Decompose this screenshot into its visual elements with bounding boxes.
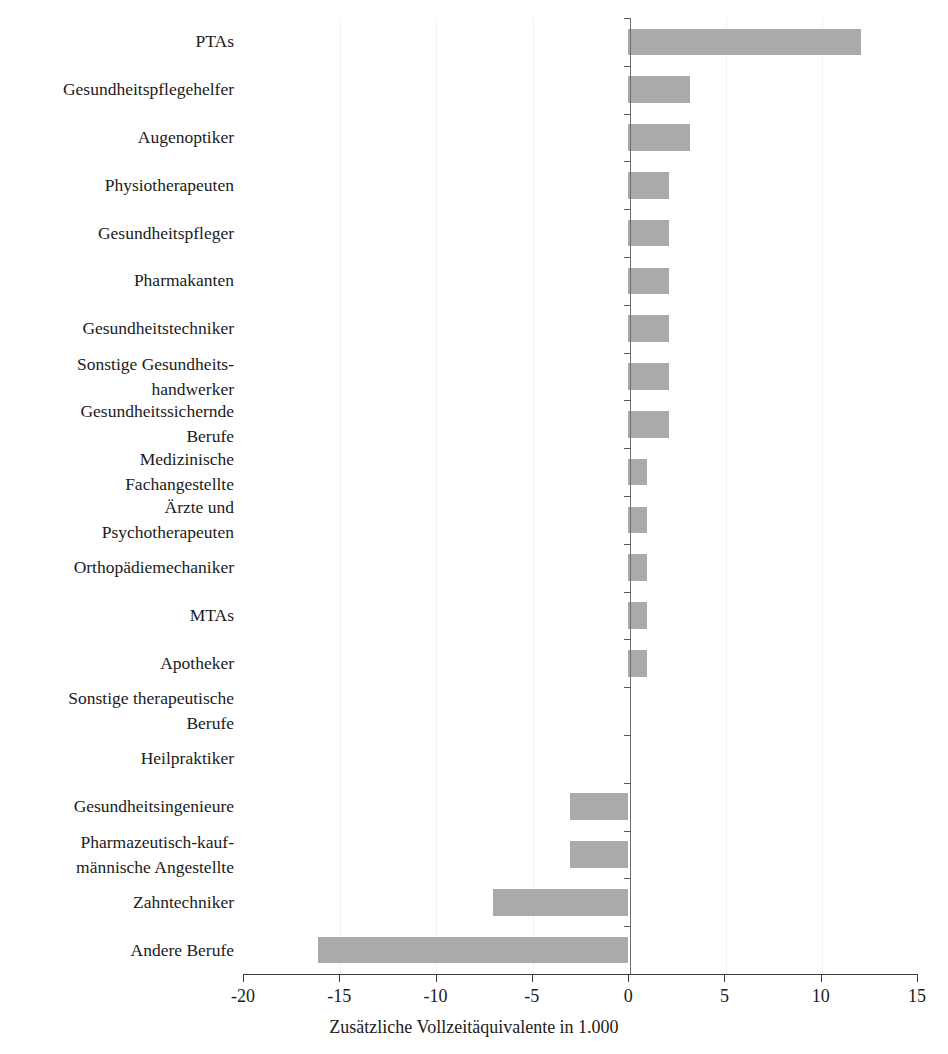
bar-row — [243, 29, 917, 56]
category-tick — [624, 687, 631, 688]
x-axis-tick — [821, 974, 822, 982]
bar-row — [243, 172, 917, 199]
bar-row — [243, 76, 917, 103]
bar-row — [243, 793, 917, 820]
category-label: Gesundheitspfleger — [0, 221, 234, 246]
x-axis-title: Zusätzliche Vollzeitäquivalente in 1.000 — [0, 1017, 948, 1038]
bar-row — [243, 411, 917, 438]
bar — [628, 507, 647, 534]
x-axis-tick-label: -5 — [502, 986, 562, 1007]
category-label: Gesundheitspflegehelfer — [0, 77, 234, 102]
category-label: Zahntechniker — [0, 890, 234, 915]
x-axis-line — [243, 974, 917, 975]
category-label: Orthopädiemechaniker — [0, 555, 234, 580]
category-tick — [624, 592, 631, 593]
bar-row — [243, 698, 917, 725]
category-tick — [624, 448, 631, 449]
bar — [628, 363, 668, 390]
category-label: Gesundheitstechniker — [0, 316, 234, 341]
category-label: Pharmazeutisch-kauf- männische Angestell… — [0, 830, 234, 880]
bar-row — [243, 268, 917, 295]
category-label: Ärzte und Psychotherapeuten — [0, 495, 234, 545]
bar-row — [243, 315, 917, 342]
category-tick — [624, 18, 631, 19]
bar-row — [243, 459, 917, 486]
bar — [628, 650, 647, 677]
category-label: Gesundheitsingenieure — [0, 794, 234, 819]
x-axis-tick-label: 5 — [694, 986, 754, 1007]
category-tick — [624, 878, 631, 879]
category-tick — [624, 735, 631, 736]
bar — [628, 459, 647, 486]
x-axis-tick — [628, 974, 629, 982]
category-tick — [624, 496, 631, 497]
category-tick — [624, 353, 631, 354]
x-axis-tick — [532, 974, 533, 982]
x-axis-tick — [243, 974, 244, 982]
category-label: Apotheker — [0, 651, 234, 676]
category-tick — [624, 209, 631, 210]
category-tick — [624, 305, 631, 306]
category-label: Augenoptiker — [0, 125, 234, 150]
category-tick — [624, 114, 631, 115]
x-axis-tick — [436, 974, 437, 982]
bar-row — [243, 937, 917, 964]
bar-row — [243, 363, 917, 390]
category-tick — [624, 66, 631, 67]
x-axis-tick — [339, 974, 340, 982]
x-axis-tick-label: 15 — [887, 986, 947, 1007]
category-label: Sonstige therapeutische Berufe — [0, 686, 234, 736]
bar-row — [243, 554, 917, 581]
bar-row — [243, 124, 917, 151]
x-axis-tick-label: -20 — [213, 986, 273, 1007]
category-label: Andere Berufe — [0, 938, 234, 963]
category-tick — [624, 831, 631, 832]
bar — [628, 124, 690, 151]
bar — [318, 937, 628, 964]
bar-row — [243, 507, 917, 534]
category-tick — [624, 544, 631, 545]
category-label: Pharmakanten — [0, 268, 234, 293]
category-tick — [624, 639, 631, 640]
bar-row — [243, 889, 917, 916]
bar — [628, 554, 647, 581]
bar-row — [243, 602, 917, 629]
bar — [628, 29, 861, 56]
category-label: Heilpraktiker — [0, 746, 234, 771]
bar — [628, 602, 647, 629]
x-axis-tick-label: -10 — [406, 986, 466, 1007]
category-label: PTAs — [0, 29, 234, 54]
bar-row — [243, 841, 917, 868]
bar-rows — [243, 18, 917, 974]
x-axis-tick-label: 10 — [791, 986, 851, 1007]
bar — [628, 411, 668, 438]
category-tick — [624, 400, 631, 401]
bar — [628, 172, 668, 199]
bar-row — [243, 650, 917, 677]
x-axis-tick-label: -15 — [309, 986, 369, 1007]
x-axis-tick — [724, 974, 725, 982]
bar — [628, 315, 668, 342]
category-label: Physiotherapeuten — [0, 173, 234, 198]
bar-row — [243, 746, 917, 773]
category-axis-labels: PTAsGesundheitspflegehelferAugenoptikerP… — [0, 18, 234, 974]
bar-row — [243, 220, 917, 247]
bar — [570, 841, 628, 868]
category-label: Gesundheitssichernde Berufe — [0, 399, 234, 449]
bar-chart: PTAsGesundheitspflegehelferAugenoptikerP… — [0, 0, 948, 1054]
x-axis-tick-label: 0 — [598, 986, 658, 1007]
category-tick — [624, 161, 631, 162]
category-label: Sonstige Gesundheits- handwerker — [0, 352, 234, 402]
category-label: Medizinische Fachangestellte — [0, 447, 234, 497]
bar — [628, 268, 668, 295]
category-label: MTAs — [0, 603, 234, 628]
bar — [628, 76, 690, 103]
bar — [493, 889, 628, 916]
category-tick — [624, 257, 631, 258]
x-axis-tick — [917, 974, 918, 982]
bar — [628, 220, 668, 247]
bar — [570, 793, 628, 820]
category-tick — [624, 926, 631, 927]
category-tick — [624, 783, 631, 784]
plot-area — [243, 18, 917, 974]
